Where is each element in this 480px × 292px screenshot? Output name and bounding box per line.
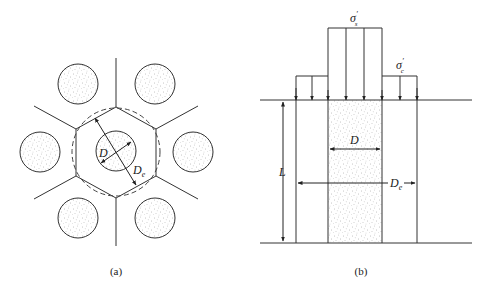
column-body <box>328 100 382 243</box>
neighbor-column-left <box>20 132 60 172</box>
label-D-a: D <box>98 146 108 160</box>
label-L: L <box>278 165 286 179</box>
neighbor-column-bottom-right <box>135 198 175 238</box>
neighbor-column-right <box>173 132 213 172</box>
neighbor-column-top-right <box>135 64 175 104</box>
neighbor-column-top-left <box>58 64 98 104</box>
label-D-b: D <box>349 133 359 147</box>
caption-a: (a) <box>110 265 123 278</box>
figure-a-hexagonal-layout: D De (a) <box>20 58 213 278</box>
label-sigma-c: σ′c <box>396 57 405 75</box>
stress-block-sigma-c-left <box>296 76 328 100</box>
label-De-a: De <box>132 163 146 179</box>
figure-b-unit-cell-section: σ′s σ′c L D De (b) <box>260 10 472 278</box>
stress-block-sigma-c-right <box>382 76 417 100</box>
caption-b: (b) <box>355 265 368 278</box>
label-sigma-s: σ′s <box>350 10 358 28</box>
neighbor-column-bottom-left <box>58 198 98 238</box>
figure-canvas: D De (a) <box>0 0 480 292</box>
stress-block-sigma-s <box>328 28 382 100</box>
